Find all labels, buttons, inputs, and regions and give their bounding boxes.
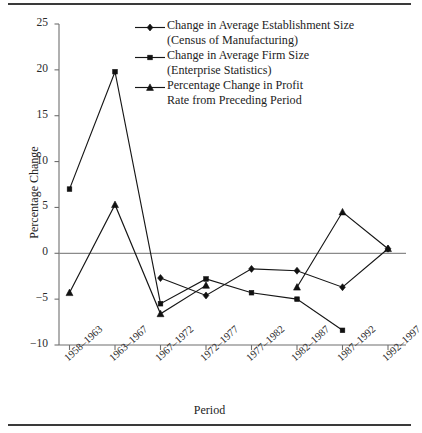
marker-triangle [157,310,164,316]
legend-item: Change in Average Firm Size (Enterprise … [133,48,419,77]
legend-item-label: Change in Average Establishment Size (Ce… [167,18,354,47]
marker-triangle [203,282,210,288]
marker-square [204,277,209,282]
marker-triangle [66,289,73,295]
marker-diamond [203,292,209,299]
legend-item: Percentage Change in Profit Rate from Pr… [133,78,419,107]
y-tick-label: 15 [10,108,48,120]
legend-square-icon [133,50,167,65]
legend-item-label: Change in Average Firm Size (Enterprise … [167,48,309,77]
legend-item: Change in Average Establishment Size (Ce… [133,18,419,47]
x-axis-title: Period [0,403,419,418]
series-3 [66,201,391,317]
marker-diamond [294,267,300,274]
series-line [161,249,389,296]
marker-diamond [147,24,153,31]
y-tick-label: 20 [10,62,48,74]
chart-legend: Change in Average Establishment Size (Ce… [133,18,419,109]
marker-triangle [112,201,119,207]
marker-triangle [294,284,301,290]
marker-square [249,290,254,295]
marker-diamond [249,265,255,272]
legend-diamond-icon [133,20,167,35]
marker-square [158,301,163,306]
marker-square [148,55,153,60]
marker-square [340,328,345,333]
marker-square [295,297,300,302]
y-tick-label: −5 [10,291,48,303]
marker-square [67,187,72,192]
marker-triangle [339,208,346,214]
legend-triangle-icon [133,80,167,95]
y-tick-label: 25 [10,16,48,28]
series-line [70,205,207,314]
marker-square [113,69,118,74]
series-group [66,69,391,332]
y-axis-title: Percentage Change [27,123,42,263]
y-tick-label: −10 [10,337,48,349]
marker-diamond [158,275,164,282]
legend-item-label: Percentage Change in Profit Rate from Pr… [167,78,303,107]
